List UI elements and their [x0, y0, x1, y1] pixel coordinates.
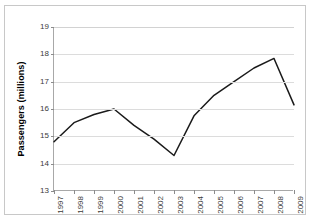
gridline-y-17 — [54, 82, 294, 83]
x-tick-label-2005: 2005 — [217, 196, 225, 214]
y-tick-label-18: 18 — [40, 50, 49, 58]
y-tick-label-19: 19 — [40, 23, 49, 31]
y-tick-mark-15 — [51, 136, 54, 137]
x-tick-label-2003: 2003 — [177, 196, 185, 214]
x-tick-label-2002: 2002 — [157, 196, 165, 214]
x-tick-mark-2005 — [214, 190, 215, 194]
x-tick-label-2001: 2001 — [137, 196, 145, 214]
y-tick-label-15: 15 — [40, 132, 49, 140]
figure-border: Passengers (millions) 131415161718191997… — [4, 5, 306, 215]
x-tick-label-2006: 2006 — [237, 196, 245, 214]
gridline-y-19 — [54, 27, 294, 28]
x-tick-mark-2007 — [254, 190, 255, 194]
series-polyline — [54, 58, 294, 155]
y-axis-title: Passengers (millions) — [14, 27, 28, 191]
gridline-y-16 — [54, 109, 294, 110]
x-tick-mark-2003 — [174, 190, 175, 194]
x-tick-mark-1997 — [54, 190, 55, 194]
x-tick-mark-2004 — [194, 190, 195, 194]
x-tick-label-2007: 2007 — [257, 196, 265, 214]
x-tick-mark-1998 — [74, 190, 75, 194]
x-tick-mark-2000 — [114, 190, 115, 194]
x-tick-label-2008: 2008 — [277, 196, 285, 214]
y-tick-mark-18 — [51, 54, 54, 55]
gridline-y-18 — [54, 54, 294, 55]
x-tick-mark-2002 — [154, 190, 155, 194]
y-tick-label-16: 16 — [40, 105, 49, 113]
y-tick-mark-14 — [51, 164, 54, 165]
plot-area: 1314151617181919971998199920002001200220… — [53, 27, 293, 191]
y-tick-label-14: 14 — [40, 160, 49, 168]
x-tick-label-2009: 2009 — [297, 196, 305, 214]
gridline-y-14 — [54, 164, 294, 165]
y-tick-mark-17 — [51, 82, 54, 83]
x-tick-mark-2009 — [294, 190, 295, 194]
gridline-y-15 — [54, 136, 294, 137]
y-tick-mark-16 — [51, 109, 54, 110]
x-tick-mark-2001 — [134, 190, 135, 194]
x-tick-label-1998: 1998 — [77, 196, 85, 214]
y-tick-label-17: 17 — [40, 78, 49, 86]
x-tick-label-2000: 2000 — [117, 196, 125, 214]
x-tick-mark-2006 — [234, 190, 235, 194]
chart-figure: Passengers (millions) 131415161718191997… — [0, 0, 312, 224]
y-axis-title-text: Passengers (millions) — [16, 61, 26, 156]
x-tick-label-2004: 2004 — [197, 196, 205, 214]
y-tick-label-13: 13 — [40, 187, 49, 195]
x-tick-mark-2008 — [274, 190, 275, 194]
x-tick-label-1999: 1999 — [97, 196, 105, 214]
x-tick-mark-1999 — [94, 190, 95, 194]
x-tick-label-1997: 1997 — [57, 196, 65, 214]
y-tick-mark-19 — [51, 27, 54, 28]
